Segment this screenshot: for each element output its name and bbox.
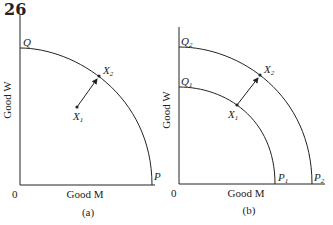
point-x1 <box>75 105 78 108</box>
ppf-curve <box>20 48 152 185</box>
shift-arrow <box>237 78 258 105</box>
point-x2 <box>97 74 100 77</box>
panel-a: Q P X1 X2 Good W Good M 0 (a) <box>1 15 161 219</box>
label-x2: X2 <box>102 64 114 78</box>
point-x1 <box>235 103 238 106</box>
x-axis-label: Good M <box>228 187 265 199</box>
label-q1: Q1 <box>181 75 192 89</box>
point-x2 <box>258 73 261 76</box>
ppf-curve-1 <box>179 87 275 184</box>
x-axis-label: Good M <box>67 188 104 200</box>
label-q2: Q2 <box>181 35 193 49</box>
label-x1: X1 <box>227 108 238 122</box>
ppf-curve-2 <box>179 47 312 184</box>
caption-b: (b) <box>243 204 256 217</box>
label-p1: P1 <box>277 171 288 185</box>
caption-a: (a) <box>82 206 95 219</box>
label-q: Q <box>23 36 31 48</box>
label-p2: P2 <box>313 171 325 185</box>
label-x2: X2 <box>263 63 275 77</box>
label-p: P <box>153 170 161 182</box>
origin-label: 0 <box>171 187 177 199</box>
shift-arrow <box>77 79 97 107</box>
ppf-diagrams: Q P X1 X2 Good W Good M 0 (a) Q2 Q1 P1 P… <box>0 0 333 225</box>
label-x1: X1 <box>72 110 83 124</box>
y-axis-label: Good W <box>160 91 172 129</box>
panel-b: Q2 Q1 P1 P2 X1 X2 Good W Good M 0 (b) <box>160 27 325 217</box>
y-axis-label: Good W <box>1 81 13 119</box>
origin-label: 0 <box>12 188 18 200</box>
